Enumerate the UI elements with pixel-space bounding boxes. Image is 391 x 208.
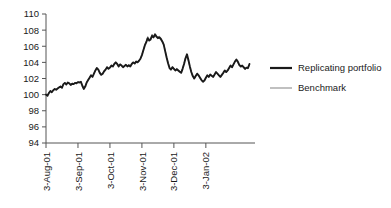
line-chart: 9496981001021041061081103-Aug-013-Sep-01… xyxy=(0,0,391,208)
x-axis-tick-label: 3-Oct-01 xyxy=(105,152,116,189)
plot-area: 9496981001021041061081103-Aug-013-Sep-01… xyxy=(23,8,381,191)
y-axis-tick-label: 102 xyxy=(23,73,39,84)
x-axis-tick-label: 3-Jan-02 xyxy=(200,152,211,190)
x-axis-tick-label: 3-Aug-01 xyxy=(41,152,52,191)
chart-container: 9496981001021041061081103-Aug-013-Sep-01… xyxy=(0,0,391,208)
y-axis-tick-label: 108 xyxy=(23,25,39,36)
y-axis-tick-label: 104 xyxy=(23,57,39,68)
y-axis-tick-label: 106 xyxy=(23,41,39,52)
legend-label: Replicating portfolio xyxy=(298,62,381,73)
x-axis-tick-label: 3-Nov-01 xyxy=(137,152,148,191)
series-line-replicating-portfolio xyxy=(46,35,249,96)
y-axis-tick-label: 110 xyxy=(24,8,39,19)
series-line-benchmark xyxy=(46,33,249,95)
y-axis-tick-label: 100 xyxy=(23,89,39,100)
y-axis-tick-label: 94 xyxy=(28,137,39,148)
legend-label: Benchmark xyxy=(298,82,346,93)
x-axis-tick-label: 3-Dec-01 xyxy=(168,152,179,191)
y-axis-tick-label: 96 xyxy=(28,121,39,132)
y-axis-tick-label: 98 xyxy=(28,105,39,116)
x-axis-tick-label: 3-Sep-01 xyxy=(73,152,84,191)
